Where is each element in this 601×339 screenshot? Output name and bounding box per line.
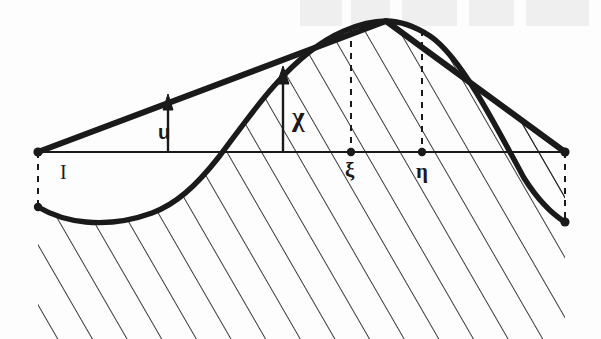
left-endpoint-dot bbox=[33, 147, 42, 156]
eta-point-dot bbox=[418, 148, 426, 156]
figure-drawing bbox=[0, 0, 601, 339]
figure-container: u χ I ξ η bbox=[0, 0, 601, 339]
label-xi: ξ bbox=[345, 160, 354, 181]
right-endpoint-dot bbox=[560, 147, 569, 156]
xi-point-dot bbox=[347, 148, 355, 156]
label-u: u bbox=[158, 122, 170, 142]
label-interval: I bbox=[60, 162, 67, 182]
curve-right-endpoint-dot bbox=[560, 217, 569, 226]
curve-left-endpoint-dot bbox=[34, 203, 42, 211]
label-eta: η bbox=[416, 161, 428, 182]
label-chi: χ bbox=[292, 104, 304, 131]
